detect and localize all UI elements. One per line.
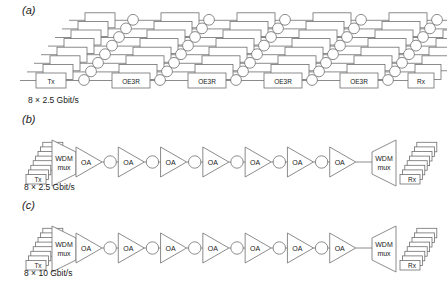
wdm-mux-left bbox=[52, 226, 76, 272]
oa-label: OA bbox=[81, 245, 91, 252]
wdm-mux-right-label-1: WDM bbox=[375, 155, 393, 162]
wdm-mux-left-label-1: WDM bbox=[55, 241, 73, 248]
oa-label: OA bbox=[166, 159, 176, 166]
oe3r-label: OE3R bbox=[122, 78, 140, 85]
oa-label: OA bbox=[81, 159, 91, 166]
panel-b-graphic: TxWDMmuxWDMmuxRxOAOAOAOAOAOAOA bbox=[0, 122, 447, 207]
span-circle bbox=[189, 156, 201, 168]
wdm-mux-left-label-2: mux bbox=[57, 164, 71, 171]
oa-label: OA bbox=[123, 245, 133, 252]
panel-a-graphic: TxOE3ROE3ROE3ROE3RRx bbox=[0, 0, 447, 110]
panel-b-caption: 8 × 2.5 Gbit/s bbox=[24, 182, 75, 192]
span-circle bbox=[189, 242, 201, 254]
oa-label: OA bbox=[292, 245, 302, 252]
wdm-mux-right-label-1: WDM bbox=[375, 241, 393, 248]
oa-label: OA bbox=[292, 159, 302, 166]
oa-label: OA bbox=[250, 159, 260, 166]
oa-label: OA bbox=[208, 245, 218, 252]
oa-label: OA bbox=[166, 245, 176, 252]
wdm-mux-left-label-2: mux bbox=[57, 250, 71, 257]
oa-label: OA bbox=[335, 159, 345, 166]
wdm-mux-left bbox=[52, 140, 76, 186]
wdm-mux-left-label-1: WDM bbox=[55, 155, 73, 162]
span-circle bbox=[315, 156, 327, 168]
panel-c-caption: 8 × 10 Gbit/s bbox=[24, 268, 72, 278]
oa-label: OA bbox=[208, 159, 218, 166]
span-circle bbox=[146, 242, 158, 254]
span-circle bbox=[104, 242, 116, 254]
span-circle bbox=[315, 242, 327, 254]
oa-label: OA bbox=[335, 245, 345, 252]
panel-a-caption: 8 × 2.5 Gbit/s bbox=[28, 95, 79, 105]
wdm-mux-right bbox=[372, 226, 396, 272]
span-circle bbox=[104, 156, 116, 168]
panel-c-graphic: TxWDMmuxWDMmuxRxOAOAOAOAOAOAOA bbox=[0, 208, 447, 293]
oa-label: OA bbox=[250, 245, 260, 252]
oe3r-label: OE3R bbox=[274, 78, 292, 85]
oe3r-label: OE3R bbox=[350, 78, 368, 85]
span-circle bbox=[356, 14, 367, 25]
oa-label: OA bbox=[123, 159, 133, 166]
wdm-mux-right-label-2: mux bbox=[377, 164, 391, 171]
rx-label: Rx bbox=[417, 78, 426, 85]
span-circle bbox=[432, 14, 443, 25]
rx-label: Rx bbox=[408, 262, 417, 269]
span-circle bbox=[231, 156, 243, 168]
span-circle bbox=[146, 156, 158, 168]
span-circle bbox=[231, 242, 243, 254]
wdm-mux-right-label-2: mux bbox=[377, 250, 391, 257]
span-circle bbox=[204, 14, 215, 25]
span-circle bbox=[128, 14, 139, 25]
span-circle bbox=[273, 156, 285, 168]
span-circle bbox=[280, 14, 291, 25]
tx-label: Tx bbox=[47, 78, 55, 85]
rx-label: Rx bbox=[408, 176, 417, 183]
wdm-mux-right bbox=[372, 140, 396, 186]
oe3r-label: OE3R bbox=[198, 78, 216, 85]
span-circle bbox=[273, 242, 285, 254]
